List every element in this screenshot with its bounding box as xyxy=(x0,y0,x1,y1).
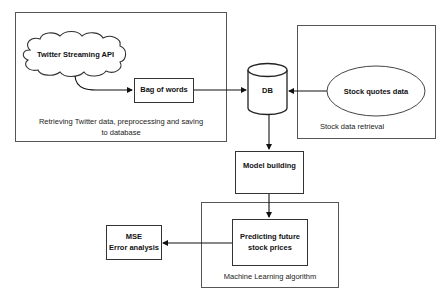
predicting-node: Predicting future stock prices xyxy=(232,219,308,266)
stock-quotes-label: Stock quotes data xyxy=(344,87,409,96)
stock-quotes-node: Stock quotes data xyxy=(330,83,422,99)
mse-label-line1: MSE xyxy=(126,232,142,242)
predicting-label-line1: Predicting future xyxy=(240,232,300,242)
twitter-group-caption: Retrieving Twitter data, preprocessing a… xyxy=(15,117,227,139)
model-building-label: Model building xyxy=(243,161,296,171)
predicting-label-line2: stock prices xyxy=(248,243,292,253)
ml-group-caption: Machine Learning algorithm xyxy=(201,272,339,283)
db-label: DB xyxy=(262,86,273,95)
twitter-caption-line2: to database xyxy=(15,128,227,139)
stock-group-caption: Stock data retrieval xyxy=(320,122,400,133)
bag-of-words-node: Bag of words xyxy=(134,78,194,103)
twitter-streaming-api-label: Twitter Streaming API xyxy=(37,50,114,59)
mse-label-line2: Error analysis xyxy=(109,243,159,253)
twitter-streaming-api-node: Twitter Streaming API xyxy=(28,46,123,62)
model-building-node: Model building xyxy=(235,151,304,194)
bag-of-words-label: Bag of words xyxy=(140,85,188,95)
db-node: DB xyxy=(248,82,287,98)
mse-error-analysis-node: MSE Error analysis xyxy=(106,225,162,260)
twitter-caption-line1: Retrieving Twitter data, preprocessing a… xyxy=(15,117,227,128)
